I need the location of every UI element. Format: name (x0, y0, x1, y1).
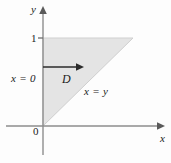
y-axis-arrowhead (39, 6, 47, 14)
y-axis-label: y (31, 4, 36, 15)
diagonal-boundary-label: x = y (84, 86, 108, 97)
x-axis-arrowhead (157, 122, 165, 130)
coordinate-diagram: y x 1 0 x = 0 D x = y (0, 0, 171, 163)
y-tick-label-one: 1 (31, 33, 37, 44)
region-label-d: D (62, 73, 71, 85)
origin-label: 0 (33, 126, 39, 137)
region-d-shape (43, 38, 133, 126)
left-boundary-label: x = 0 (11, 73, 36, 84)
x-axis-label: x (160, 133, 165, 144)
